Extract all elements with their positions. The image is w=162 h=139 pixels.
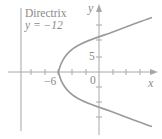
y-axis-arrow-icon — [96, 4, 102, 12]
x-axis-label: x — [148, 77, 153, 89]
tick-label-x-neg6: −6 — [44, 76, 56, 88]
y-axis-label: y — [88, 2, 93, 14]
x-axis-arrow-icon — [150, 69, 158, 75]
directrix-equation: y = −12 — [25, 20, 63, 32]
directrix-title: Directrix — [25, 8, 67, 20]
tick-label-y-5: 5 — [89, 51, 95, 63]
tick-label-origin: 0 — [90, 75, 96, 87]
